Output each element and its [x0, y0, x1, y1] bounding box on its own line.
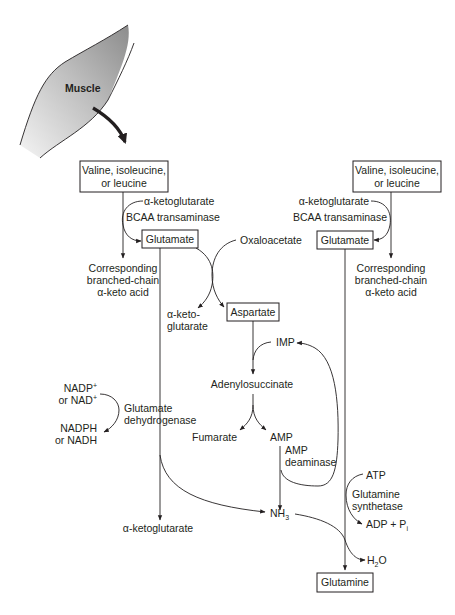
- glutamate-to-alpha-kg-curve: [196, 248, 213, 308]
- aspartate-box: Aspartate: [227, 303, 279, 321]
- svg-text:α-keto-: α-keto-: [167, 308, 200, 320]
- to-amp-curve: [253, 405, 266, 430]
- right-alpha-kg-label: α-ketoglutarate: [299, 195, 369, 207]
- cofactor-reduction-curve: [100, 394, 119, 432]
- svg-text:NADP+: NADP+: [64, 382, 97, 394]
- alpha-kg-product-label: α-ketoglutarate: [123, 522, 193, 534]
- svg-text:or leucine: or leucine: [374, 177, 420, 189]
- left-alpha-kg-label: α-ketoglutarate: [144, 195, 214, 207]
- to-fumarate-curve: [240, 394, 253, 430]
- atp-label: ATP: [366, 469, 386, 481]
- left-glutamate-box: Glutamate: [142, 230, 198, 248]
- svg-text:Corresponding: Corresponding: [357, 262, 426, 274]
- svg-text:Glutamine: Glutamine: [352, 488, 400, 500]
- svg-text:synthetase: synthetase: [352, 500, 403, 512]
- svg-text:Glutamate: Glutamate: [146, 233, 195, 245]
- svg-text:deaminase: deaminase: [285, 456, 337, 468]
- imp-label: IMP: [276, 336, 295, 348]
- glutamate-dehydrogenase-label: Glutamate dehydrogenase: [124, 402, 197, 426]
- adenylosuccinate-label: Adenylosuccinate: [211, 378, 293, 390]
- right-bcaa-box: Valine, isoleucine, or leucine: [353, 161, 441, 192]
- svg-text:or NAD+: or NAD+: [58, 394, 97, 406]
- svg-text:Corresponding: Corresponding: [89, 262, 158, 274]
- left-keto-acid-label: Corresponding branched-chain α-keto acid: [87, 262, 160, 298]
- svg-text:Aspartate: Aspartate: [231, 306, 276, 318]
- imp-join-curve: [253, 342, 271, 360]
- nh3-to-glutamine-curve: [295, 514, 365, 560]
- nh3-label: NH3: [270, 507, 289, 521]
- svg-text:or leucine: or leucine: [101, 177, 147, 189]
- nadp-in-label: NADP+ or NAD+: [58, 382, 97, 406]
- water-label: H2O: [367, 554, 387, 568]
- svg-text:branched-chain: branched-chain: [355, 274, 428, 286]
- muscle-label: Muscle: [65, 82, 101, 94]
- svg-text:α-keto acid: α-keto acid: [365, 286, 417, 298]
- svg-text:branched-chain: branched-chain: [87, 274, 160, 286]
- svg-text:glutarate: glutarate: [167, 320, 208, 332]
- oxaloacetate-to-aspartate-curve: [212, 240, 236, 307]
- alpha-kg-out-label: α-keto- glutarate: [167, 308, 208, 332]
- glutamine-synthesis-diagram: Muscle Valine, isoleucine, or leucine α-…: [0, 0, 455, 615]
- oxaloacetate-label: Oxaloacetate: [240, 234, 302, 246]
- amp-label: AMP: [270, 431, 293, 443]
- svg-text:AMP: AMP: [285, 444, 308, 456]
- nadph-out-label: NADPH or NADH: [55, 422, 97, 446]
- amp-deaminase-label: AMP deaminase: [285, 444, 337, 468]
- svg-text:dehydrogenase: dehydrogenase: [124, 414, 197, 426]
- right-enzyme-label: BCAA transaminase: [293, 211, 387, 223]
- svg-text:Glutamine: Glutamine: [321, 576, 369, 588]
- svg-text:Glutamate: Glutamate: [321, 234, 370, 246]
- svg-text:α-keto acid: α-keto acid: [97, 286, 149, 298]
- left-bcaa-box: Valine, isoleucine, or leucine: [80, 161, 168, 192]
- svg-text:NADPH: NADPH: [60, 422, 97, 434]
- glutamine-box: Glutamine: [317, 573, 373, 592]
- left-enzyme-label: BCAA transaminase: [126, 211, 220, 223]
- right-glutamate-box: Glutamate: [317, 231, 373, 249]
- right-keto-acid-label: Corresponding branched-chain α-keto acid: [355, 262, 428, 298]
- glutamine-synthetase-label: Glutamine synthetase: [352, 488, 403, 512]
- svg-text:Valine, isoleucine,: Valine, isoleucine,: [355, 164, 439, 176]
- muscle-tissue: Muscle: [20, 25, 134, 158]
- fumarate-label: Fumarate: [192, 431, 237, 443]
- svg-text:or NADH: or NADH: [55, 434, 97, 446]
- svg-text:Glutamate: Glutamate: [124, 402, 173, 414]
- glutamate-to-nh3-curve: [160, 455, 265, 512]
- svg-text:Valine, isoleucine,: Valine, isoleucine,: [82, 164, 166, 176]
- adp-pi-label: ADP + Pi: [366, 518, 408, 532]
